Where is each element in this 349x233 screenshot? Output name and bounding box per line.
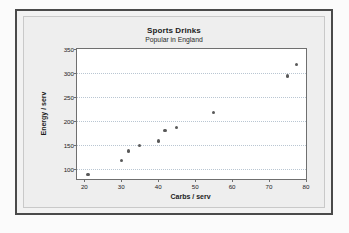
data-point bbox=[120, 159, 123, 162]
x-tick-mark bbox=[195, 179, 196, 182]
data-point bbox=[157, 139, 160, 142]
chart-title: Sports Drinks bbox=[23, 26, 325, 35]
screenshot-root: Sports Drinks Popular in England Energy … bbox=[0, 0, 349, 233]
y-tick-label: 300 bbox=[64, 70, 74, 77]
y-gridline bbox=[77, 121, 306, 122]
x-tick-mark bbox=[121, 179, 122, 182]
x-tick-mark bbox=[269, 179, 270, 182]
y-axis-title: Energy / serv bbox=[39, 48, 49, 178]
y-tick-mark bbox=[74, 49, 77, 50]
x-axis-title: Carbs / serv bbox=[76, 193, 305, 200]
y-tick-label: 100 bbox=[64, 166, 74, 173]
y-gridline bbox=[77, 169, 306, 170]
y-tick-mark bbox=[74, 73, 77, 74]
x-tick-label: 40 bbox=[155, 183, 162, 190]
y-gridline bbox=[77, 73, 306, 74]
x-tick-label: 20 bbox=[81, 183, 88, 190]
x-tick-label: 50 bbox=[192, 183, 199, 190]
x-tick-mark bbox=[84, 179, 85, 182]
data-point bbox=[86, 173, 89, 176]
x-tick-label: 70 bbox=[266, 183, 273, 190]
data-point bbox=[138, 144, 141, 147]
data-point bbox=[163, 129, 166, 132]
scatter-chart: Sports Drinks Popular in England Energy … bbox=[23, 16, 325, 208]
y-tick-mark bbox=[74, 97, 77, 98]
y-tick-label: 150 bbox=[64, 142, 74, 149]
x-tick-label: 80 bbox=[303, 183, 310, 190]
y-tick-label: 350 bbox=[64, 46, 74, 53]
y-gridline bbox=[77, 97, 306, 98]
data-point bbox=[127, 149, 130, 152]
y-axis-title-text: Energy / serv bbox=[41, 91, 48, 135]
y-tick-label: 250 bbox=[64, 94, 74, 101]
y-tick-mark bbox=[74, 121, 77, 122]
data-point bbox=[212, 111, 215, 114]
y-gridline bbox=[77, 145, 306, 146]
y-tick-mark bbox=[74, 169, 77, 170]
y-tick-label: 200 bbox=[64, 118, 74, 125]
x-tick-mark bbox=[158, 179, 159, 182]
x-tick-mark bbox=[232, 179, 233, 182]
data-point bbox=[175, 126, 178, 129]
chart-subtitle: Popular in England bbox=[23, 36, 325, 43]
data-point bbox=[286, 74, 289, 77]
x-tick-label: 60 bbox=[229, 183, 236, 190]
y-tick-mark bbox=[74, 145, 77, 146]
data-point bbox=[295, 63, 298, 66]
x-tick-label: 30 bbox=[118, 183, 125, 190]
x-tick-mark bbox=[306, 179, 307, 182]
plot-area: 10015020025030035020304050607080 bbox=[76, 48, 307, 180]
